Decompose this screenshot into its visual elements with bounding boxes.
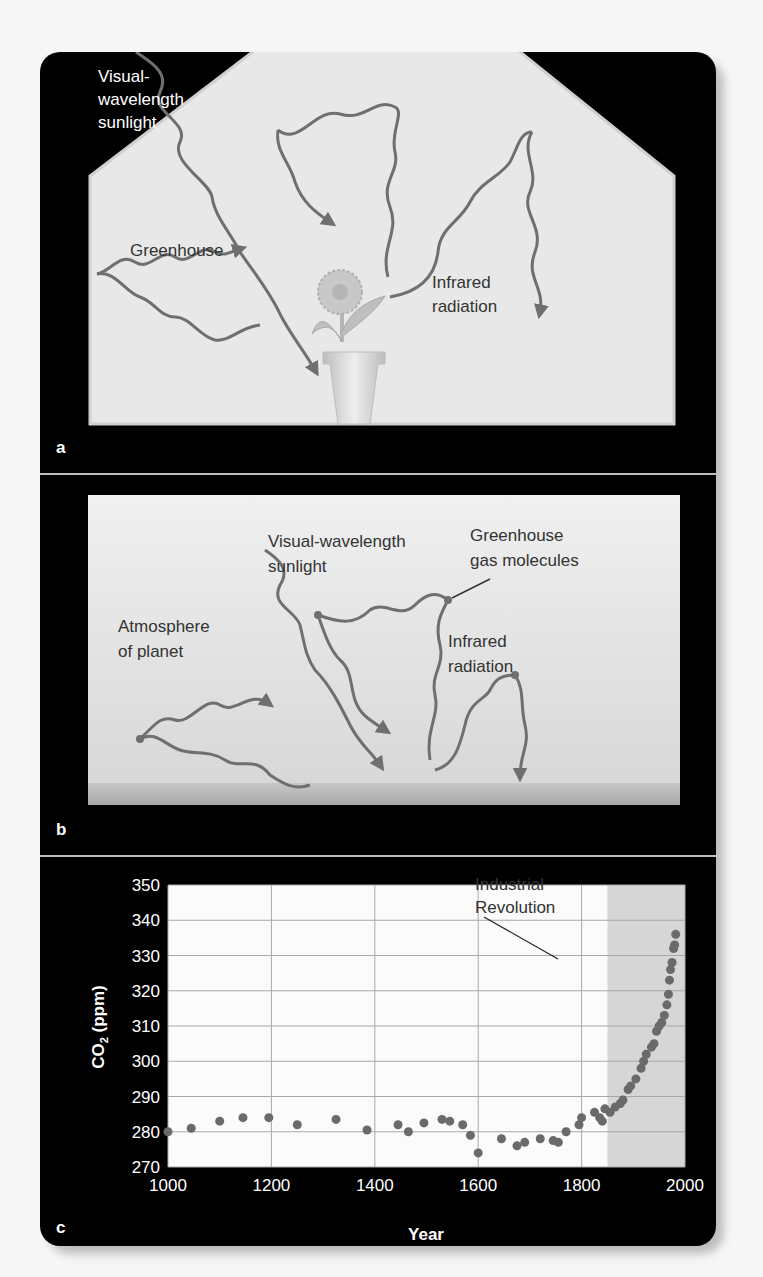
data-point [670, 940, 679, 949]
label-b-atmosphere-2: of planet [118, 642, 183, 661]
annotation-line-2: Revolution [475, 898, 555, 917]
data-point [660, 1011, 669, 1020]
data-point [332, 1115, 341, 1124]
x-tick-label: 1600 [459, 1176, 497, 1195]
y-tick-label: 330 [132, 947, 160, 966]
figure-frame: Visual- wavelength sunlight Greenhouse I… [40, 52, 716, 1246]
data-point [438, 1115, 447, 1124]
co2-chart: 2702802903003103203303403501000120014001… [40, 857, 716, 1246]
panel-b-atmosphere: Visual-wavelength sunlight Greenhouse ga… [40, 475, 716, 856]
data-point [520, 1138, 529, 1147]
label-b-gas-2: gas molecules [470, 551, 579, 570]
data-point [264, 1113, 273, 1122]
x-tick-label: 2000 [666, 1176, 704, 1195]
label-a-greenhouse: Greenhouse [130, 241, 224, 260]
x-axis-label: Year [408, 1225, 444, 1244]
data-point [536, 1134, 545, 1143]
data-point [445, 1117, 454, 1126]
x-tick-label: 1000 [149, 1176, 187, 1195]
data-point [363, 1125, 372, 1134]
data-point [671, 930, 680, 939]
label-a-sunlight-1: Visual- [98, 67, 150, 86]
data-point [404, 1127, 413, 1136]
label-a-infrared-1: Infrared [432, 273, 491, 292]
data-point [664, 990, 673, 999]
y-tick-label: 310 [132, 1017, 160, 1036]
panel-a-greenhouse: Visual- wavelength sunlight Greenhouse I… [40, 52, 716, 474]
data-point [598, 1117, 607, 1126]
panel-b-letter: b [56, 820, 66, 840]
data-point [394, 1120, 403, 1129]
data-point [466, 1131, 475, 1140]
y-tick-label: 270 [132, 1158, 160, 1177]
y-tick-label: 290 [132, 1088, 160, 1107]
data-point [497, 1134, 506, 1143]
molecule-icon [136, 735, 144, 743]
y-tick-label: 350 [132, 876, 160, 895]
y-tick-label: 280 [132, 1123, 160, 1142]
panel-c-letter: c [56, 1218, 65, 1238]
molecule-icon [314, 611, 322, 619]
data-point [419, 1118, 428, 1127]
data-point [562, 1127, 571, 1136]
data-point [164, 1127, 173, 1136]
data-point [238, 1113, 247, 1122]
x-tick-label: 1400 [356, 1176, 394, 1195]
y-tick-label: 300 [132, 1052, 160, 1071]
data-point [668, 958, 677, 967]
data-point [631, 1074, 640, 1083]
x-tick-label: 1200 [252, 1176, 290, 1195]
label-b-sunlight-1: Visual-wavelength [268, 532, 406, 551]
label-b-infrared-2: radiation [448, 657, 513, 676]
label-a-sunlight-3: sunlight [98, 113, 157, 132]
y-tick-label: 340 [132, 911, 160, 930]
data-point [554, 1138, 563, 1147]
planet-surface [88, 783, 680, 805]
data-point [662, 1000, 671, 1009]
label-b-sunlight-2: sunlight [268, 557, 327, 576]
label-b-gas-1: Greenhouse [470, 526, 564, 545]
data-point [215, 1117, 224, 1126]
data-point [649, 1039, 658, 1048]
molecule-icon [444, 596, 452, 604]
label-b-infrared-1: Infrared [448, 632, 507, 651]
data-point [458, 1120, 467, 1129]
label-a-infrared-2: radiation [432, 297, 497, 316]
data-point [512, 1141, 521, 1150]
panel-a-letter: a [56, 438, 65, 458]
label-a-sunlight-2: wavelength [97, 90, 184, 109]
data-point [665, 976, 674, 985]
annotation-line-1: Industrial [475, 875, 544, 894]
data-point [618, 1096, 627, 1105]
data-point [474, 1148, 483, 1157]
y-axis-label: CO2 (ppm) [89, 985, 110, 1069]
data-point [577, 1113, 586, 1122]
label-b-atmosphere-1: Atmosphere [118, 617, 210, 636]
x-tick-label: 1800 [563, 1176, 601, 1195]
data-point [187, 1124, 196, 1133]
y-tick-label: 320 [132, 982, 160, 1001]
data-point [293, 1120, 302, 1129]
